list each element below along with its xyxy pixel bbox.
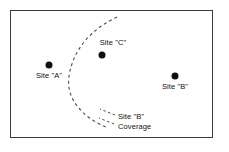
site-b-label: Site "B" [162, 82, 188, 91]
diagram-canvas: Site "A" Site "C" Site "B" Site "B" Cove… [0, 0, 229, 152]
coverage-annotation-line2: Coverage [118, 122, 151, 132]
site-c-label: Site "C" [100, 38, 127, 47]
site-c-marker-dot [99, 52, 106, 59]
site-a-label: Site "A" [36, 71, 62, 80]
site-a-marker-dot [46, 62, 53, 69]
coverage-annotation-line1: Site "B" [118, 112, 151, 122]
coverage-annotation-text: Site "B" Coverage [118, 112, 151, 131]
site-b-marker-dot [172, 73, 179, 80]
